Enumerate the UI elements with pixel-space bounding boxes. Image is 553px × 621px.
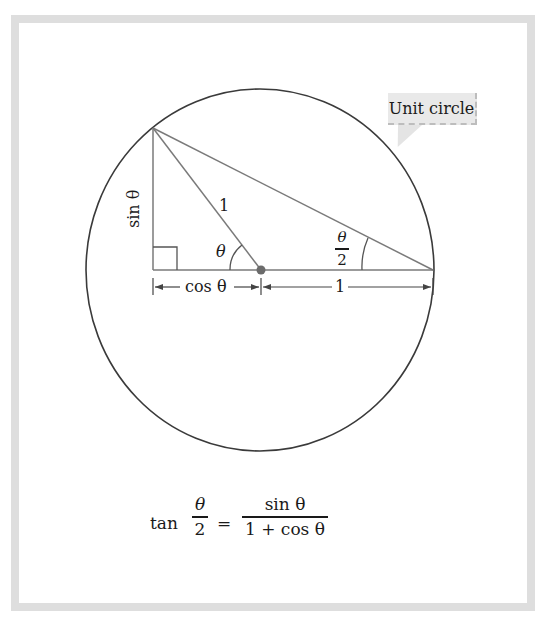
base-one-label: 1 [335,279,345,295]
formula-lhs-fraction: θ 2 [192,496,208,538]
fraction-bar [335,248,349,250]
cos-arrow-right [251,284,259,290]
hypotenuse-label: 1 [219,198,229,214]
one-arrow-right [423,284,431,290]
chord-line [153,128,433,270]
one-arrow-left [263,284,271,290]
right-angle-marker [153,247,177,270]
theta-label: θ [216,244,226,260]
half-angle-label: θ 2 [335,230,349,268]
sin-label: sin θ [126,190,142,228]
center-point [257,266,266,275]
formula-rhs-fraction: sin θ 1 + cos θ [242,496,328,538]
formula-equals: = [217,515,231,532]
half-theta-arc [362,238,368,270]
cos-label: cos θ [185,279,227,295]
formula-tan: tan [150,515,178,532]
unit-circle-callout: Unit circle [388,93,477,125]
theta-arc [230,245,242,270]
radius-line [153,128,261,270]
callout-label: Unit circle [389,99,475,118]
cos-arrow-left [155,284,163,290]
